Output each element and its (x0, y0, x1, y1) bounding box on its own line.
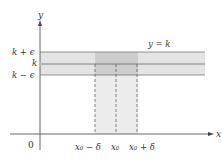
curve-label: y = k (147, 39, 170, 49)
point-k (39, 63, 42, 66)
diagram-canvas: y x 0 k + ϵ k k − ϵ y = k x₀ − δ x₀ x₀ +… (0, 0, 222, 160)
origin-label: 0 (28, 140, 34, 150)
label-k: k (32, 58, 37, 68)
x-axis-arrow-icon (208, 132, 214, 136)
label-x0-plus-delta: x₀ + δ (129, 142, 155, 152)
overlap-region (95, 52, 138, 75)
label-k-plus-epsilon: k + ϵ (12, 47, 35, 57)
label-x0: x₀ (111, 142, 120, 152)
y-axis-arrow-icon (38, 20, 42, 26)
x-axis-label: x (216, 129, 221, 139)
label-k-minus-epsilon: k − ϵ (12, 70, 35, 80)
y-axis-label: y (37, 10, 44, 20)
label-x0-minus-delta: x₀ − δ (75, 142, 101, 152)
epsilon-delta-diagram: y x 0 k + ϵ k k − ϵ y = k x₀ − δ x₀ x₀ +… (0, 0, 222, 160)
